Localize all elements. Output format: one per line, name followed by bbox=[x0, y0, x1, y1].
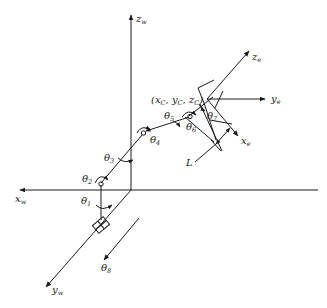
world-z-label: zw bbox=[135, 13, 147, 26]
theta8-label: θ8 bbox=[101, 262, 111, 275]
joint4-circle bbox=[141, 131, 145, 135]
world-y-label: yw bbox=[51, 284, 64, 297]
theta6-label: θ6 bbox=[186, 121, 196, 134]
end-point-label: (xC, yC, zC) bbox=[151, 94, 203, 107]
world-x-label: xw bbox=[15, 193, 27, 206]
effector-z-label: ze bbox=[251, 51, 261, 64]
theta5-label: θ5 bbox=[164, 110, 174, 123]
theta3-label: θ3 bbox=[104, 152, 114, 165]
effector-z-axis bbox=[207, 51, 249, 99]
length-leader bbox=[195, 144, 216, 162]
length-dimension bbox=[216, 128, 230, 144]
theta7-label: θ7 bbox=[207, 110, 218, 123]
length-label: L bbox=[185, 157, 193, 168]
theta2-label: θ2 bbox=[82, 173, 92, 186]
effector-y-label: ye bbox=[270, 93, 281, 106]
theta1-arc bbox=[96, 205, 112, 209]
robot-arm-diagram: zw xw yw ze ye xe (xC, yC, z bbox=[0, 0, 327, 308]
theta1-label: θ1 bbox=[81, 195, 91, 208]
theta4-label: θ4 bbox=[150, 134, 160, 147]
effector-x-label: xe bbox=[241, 135, 251, 148]
